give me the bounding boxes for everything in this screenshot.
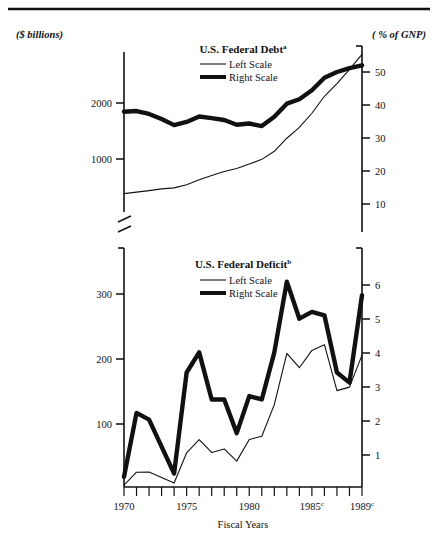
debt-left-tick-label-2000: 2000 <box>91 98 112 109</box>
debt-right-tick-label-40: 40 <box>375 100 386 111</box>
x-axis-tick-label-text: 1980 <box>239 501 260 512</box>
debt-legend-label-left-scale: Left Scale <box>229 59 272 70</box>
deficit-left-tick-label-200: 200 <box>96 354 112 365</box>
x-axis-tick-label-1989: 1989c <box>350 500 374 512</box>
chart-canvas: ($ billions) ( % of GNP) 2000 1000 50 <box>0 0 438 538</box>
left-unit-label: ($ billions) <box>16 29 63 41</box>
debt-legend-label-right-scale: Right Scale <box>229 72 278 83</box>
deficit-panel-title-superscript: b <box>287 258 291 266</box>
x-axis-ticks <box>124 487 362 496</box>
deficit-panel-title-text: U.S. Federal Deficit <box>195 258 288 270</box>
debt-left-axis-break-2 <box>118 226 131 232</box>
deficit-legend-label-left-scale: Left Scale <box>229 275 272 286</box>
deficit-right-tick-label-3: 3 <box>375 382 380 393</box>
x-axis-tick-label-text: 1989 <box>350 501 371 512</box>
x-axis-caption: Fiscal Years <box>218 519 269 530</box>
panel-debt: 2000 1000 50 40 30 20 10 U.S. Federal De… <box>91 43 386 232</box>
panel-deficit: 300 200 100 6 5 4 3 2 1 U.S. Federal Def… <box>96 248 381 512</box>
x-axis-tick-labels: 1970197519801985c1989c <box>114 500 375 512</box>
debt-left-tick-label-1000: 1000 <box>91 154 112 165</box>
debt-right-tick-label-30: 30 <box>375 133 386 144</box>
debt-panel-title: U.S. Federal Debta <box>199 43 287 55</box>
debt-left-axis-break-1 <box>118 216 131 222</box>
deficit-series-right-scale-line <box>124 282 362 477</box>
x-axis-tick-label-1975: 1975 <box>176 501 197 512</box>
debt-right-tick-label-10: 10 <box>375 199 386 210</box>
debt-right-tick-label-20: 20 <box>375 166 386 177</box>
deficit-left-tick-label-100: 100 <box>96 419 112 430</box>
x-axis-tick-label-text: 1975 <box>176 501 197 512</box>
deficit-legend-label-right-scale: Right Scale <box>229 288 278 299</box>
x-axis-tick-label-text: 1985 <box>300 501 321 512</box>
x-axis-tick-label-1980: 1980 <box>239 501 260 512</box>
deficit-right-tick-label-4: 4 <box>375 348 381 359</box>
deficit-panel-title: U.S. Federal Deficitb <box>195 258 291 270</box>
x-axis-tick-label-superscript: c <box>321 500 324 508</box>
right-unit-label: ( % of GNP) <box>372 29 426 41</box>
debt-panel-title-text: U.S. Federal Debt <box>199 43 283 55</box>
deficit-right-tick-label-1: 1 <box>375 450 380 461</box>
x-axis-tick-label-1985: 1985c <box>300 500 324 512</box>
deficit-left-tick-label-300: 300 <box>96 289 112 300</box>
x-axis-tick-label-superscript: c <box>371 500 374 508</box>
deficit-right-tick-label-6: 6 <box>375 280 380 291</box>
x-axis-tick-label-1970: 1970 <box>114 501 135 512</box>
x-axis-tick-label-text: 1970 <box>114 501 135 512</box>
deficit-right-tick-label-2: 2 <box>375 416 380 427</box>
debt-panel-title-superscript: a <box>283 43 287 51</box>
deficit-right-tick-label-5: 5 <box>375 314 380 325</box>
figure-root: ($ billions) ( % of GNP) 2000 1000 50 <box>0 0 438 538</box>
debt-right-tick-label-50: 50 <box>375 67 386 78</box>
